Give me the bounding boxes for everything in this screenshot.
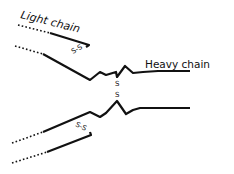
lower-heavy-chain (12, 101, 190, 143)
hinge-disulfide-bond: S S (115, 80, 120, 99)
disulfide-label: S-S (74, 121, 88, 133)
hinge-s-top: S (115, 80, 120, 88)
lower-light-chain (12, 132, 91, 163)
disulfide-label: S-S (70, 43, 84, 56)
hinge-s-bottom: S (115, 91, 120, 99)
antibody-diagram: S-S S-S S S Light chain Heavy chain (0, 0, 234, 174)
lower-disulfide-bond: S-S (74, 121, 88, 133)
upper-disulfide-bond: S-S (70, 43, 84, 56)
heavy-chain-label: Heavy chain (145, 58, 210, 70)
light-chain-label: Light chain (19, 8, 81, 35)
